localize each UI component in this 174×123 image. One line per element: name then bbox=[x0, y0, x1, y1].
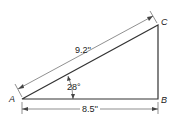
vertex-label-c: C bbox=[161, 18, 168, 27]
base-label: 8.5'' bbox=[80, 105, 100, 114]
triangle-shape bbox=[22, 25, 158, 99]
vertex-label-b: B bbox=[161, 96, 167, 105]
angle-label: 28° bbox=[67, 83, 81, 92]
hypotenuse-label: 9.2'' bbox=[75, 46, 91, 55]
vertex-label-a: A bbox=[9, 95, 15, 104]
